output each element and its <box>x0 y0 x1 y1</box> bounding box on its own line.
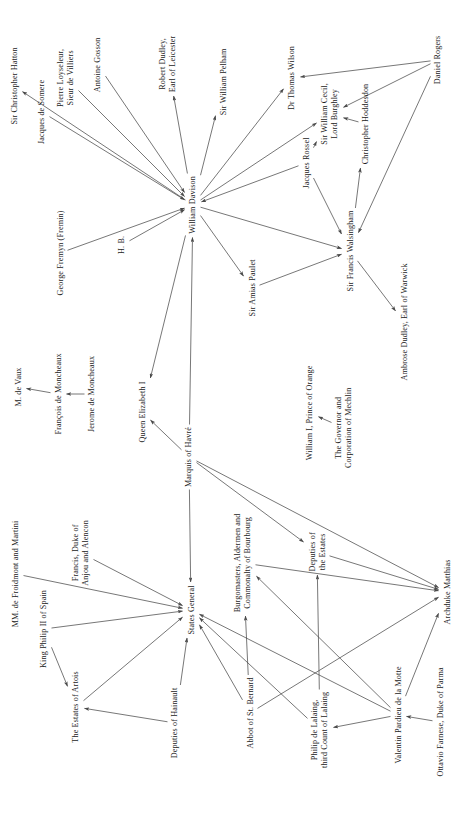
edge-lamotte-to-matthias <box>406 613 439 696</box>
node-label-lamotte[interactable]: Valentin Pardieu de la Motte <box>393 666 403 763</box>
node-label-fremyn[interactable]: George Fremyn (Fremin) <box>55 210 65 295</box>
node-text: Queen Elizabeth I <box>137 381 147 442</box>
node-label-rossel[interactable]: Jacques Rossel <box>301 137 311 188</box>
node-text: Francis, Duke ofAnjou and Alencon <box>71 520 91 586</box>
edge-davison-to-leicester <box>174 96 188 174</box>
edge-davison-to-paulet <box>201 216 244 276</box>
node-label-statesgen[interactable]: States General <box>186 585 196 634</box>
node-text: Sir Amias Paulet <box>247 259 257 316</box>
edge-rogers-to-wilson <box>301 61 431 77</box>
node-label-loyseleur[interactable]: Pierre Loyseleur,Sieur de Villiers <box>56 49 76 107</box>
node-text: Jacques Rossel <box>301 137 311 188</box>
node-label-somere[interactable]: Jacques de Somere <box>37 80 47 144</box>
edge-havre-to-statesgen <box>189 490 190 583</box>
edge-depestates-to-matthias <box>330 556 439 590</box>
node-text: Christopher Hoddesdon <box>361 84 371 165</box>
node-label-farnese[interactable]: Ottavio Farnese, Duke of Parma <box>435 667 445 776</box>
node-label-gosson[interactable]: Antoine Gosson <box>93 38 103 93</box>
node-text: Antoine Gosson <box>93 38 103 93</box>
network-diagram-canvas: Sir Christopher HattonJacques de SomereP… <box>0 0 470 816</box>
node-label-lalaing[interactable]: Philip de Lalaing,third Count of Lalaing <box>310 692 330 768</box>
node-label-burgomasters[interactable]: Burgomasters, Aldermen andCommonalty of … <box>233 514 253 613</box>
node-label-jerome[interactable]: Jerome de Moncheaux <box>87 356 97 432</box>
node-label-hb[interactable]: H. B. <box>117 236 127 254</box>
node-label-matthias[interactable]: Archduke Matthias <box>442 559 452 624</box>
edge-gosson-to-davison <box>106 76 185 192</box>
node-text: The Governor andCorporation of Mechlin <box>334 388 354 468</box>
edge-philip2-to-artois <box>52 647 68 686</box>
node-label-elizabeth[interactable]: Queen Elizabeth I <box>137 381 147 442</box>
node-text: Archduke Matthias <box>442 559 452 624</box>
edge-paulet-to-walsingham <box>260 254 342 285</box>
edge-lamotte-to-lalaing <box>334 716 391 727</box>
node-text: Valentin Pardieu de la Motte <box>393 666 403 763</box>
node-text: M. de Vaux <box>13 367 23 406</box>
node-label-francois[interactable]: François de Moncheaux <box>53 353 63 434</box>
node-label-hoddesdon[interactable]: Christopher Hoddesdon <box>361 84 371 165</box>
node-text: François de Moncheaux <box>53 353 63 434</box>
node-text: Deputies of Hainault <box>170 688 180 759</box>
node-label-froidmont[interactable]: MM. de Froidmont and Martini <box>11 521 21 628</box>
edge-hainault-to-statesgen <box>180 638 187 685</box>
edge-stbernard-to-burgomasters <box>245 616 248 675</box>
node-text: Ambrose Dudley, Earl of Warwick <box>399 263 409 380</box>
node-label-artois[interactable]: The Estates of Artois <box>71 671 81 743</box>
edge-anjou-to-statesgen <box>94 559 183 605</box>
edge-davison-to-pelham <box>201 116 216 176</box>
node-label-stbernard[interactable]: Abbot of St. Bernard <box>245 677 255 748</box>
edge-burgomasters-to-matthias <box>256 565 439 591</box>
edge-artois-to-statesgen <box>84 617 183 701</box>
node-label-davison[interactable]: William Davison <box>188 176 198 234</box>
node-text: William I, Prince of Orange <box>305 366 315 461</box>
edge-walsingham-to-hoddesdon <box>355 168 360 208</box>
edge-loyseleur-to-davison <box>79 91 185 197</box>
node-label-depestates[interactable]: Deputies ofthe Estates <box>307 532 327 571</box>
edge-somere-to-davison <box>50 117 185 200</box>
edge-rogers-to-burghley <box>344 64 431 108</box>
node-label-paulet[interactable]: Sir Amias Paulet <box>247 259 257 316</box>
node-label-hatton[interactable]: Sir Christopher Hatton <box>9 47 19 124</box>
node-text: Ottavio Farnese, Duke of Parma <box>435 667 445 776</box>
edge-philip2-to-statesgen <box>52 611 183 628</box>
node-label-orange[interactable]: William I, Prince of Orange <box>305 366 315 461</box>
node-text: Abbot of St. Bernard <box>245 677 255 748</box>
node-label-wilson[interactable]: Dr Thomas Wilson <box>287 46 297 110</box>
node-text: States General <box>186 585 196 634</box>
node-label-mechlin[interactable]: The Governor andCorporation of Mechlin <box>334 388 354 468</box>
edge-hb-to-davison <box>130 210 185 241</box>
node-text: Sir William Cecil,Lord Burghley <box>320 83 340 145</box>
node-text: Deputies ofthe Estates <box>307 532 327 571</box>
node-label-rogers[interactable]: Daniel Rogers <box>433 36 443 85</box>
node-label-havre[interactable]: Marquis of Havré <box>184 427 194 487</box>
node-text: Philip de Lalaing,third Count of Lalaing <box>310 692 330 768</box>
edge-rossel-to-walsingham <box>314 178 342 234</box>
node-label-philip2[interactable]: King Philip II of Spain <box>39 590 49 668</box>
edge-davison-to-burghley <box>201 123 317 200</box>
node-label-anjou[interactable]: Francis, Duke ofAnjou and Alencon <box>71 520 91 586</box>
node-text: Jerome de Moncheaux <box>87 356 97 432</box>
node-label-burghley[interactable]: Sir William Cecil,Lord Burghley <box>320 83 340 145</box>
node-text: Pierre Loyseleur,Sieur de Villiers <box>56 49 76 107</box>
node-text: Marquis of Havré <box>184 427 194 487</box>
node-text: Sir Francis Walsingham <box>345 210 355 291</box>
edge-lamotte-to-statesgen <box>200 614 391 711</box>
node-text: King Philip II of Spain <box>39 590 49 668</box>
node-label-warwick[interactable]: Ambrose Dudley, Earl of Warwick <box>399 263 409 380</box>
edge-lamotte-to-burgomasters <box>257 576 391 707</box>
node-text: Jacques de Somere <box>37 80 47 144</box>
edge-havre-to-davison <box>190 238 193 425</box>
edges-group <box>23 61 439 727</box>
node-label-hainault[interactable]: Deputies of Hainault <box>170 688 180 759</box>
edge-stbernard-to-statesgen <box>200 625 243 700</box>
edge-rossel-to-burghley <box>314 142 317 148</box>
node-text: Dr Thomas Wilson <box>287 46 297 110</box>
node-label-devaux[interactable]: M. de Vaux <box>13 367 23 406</box>
node-text: H. B. <box>117 236 127 254</box>
node-text: Sir William Pelham <box>219 49 229 116</box>
edge-walsingham-to-warwick <box>358 261 396 311</box>
node-label-leicester[interactable]: Robert Dudley,Earl of Leicester <box>158 36 178 93</box>
edge-davison-to-walsingham <box>201 207 342 248</box>
edge-farnese-to-lamotte <box>407 716 433 720</box>
node-label-pelham[interactable]: Sir William Pelham <box>219 49 229 116</box>
node-label-walsingham[interactable]: Sir Francis Walsingham <box>345 210 355 291</box>
